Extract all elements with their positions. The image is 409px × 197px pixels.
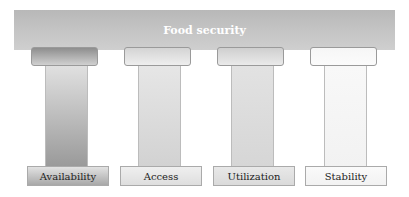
pillar-capital-access [124, 47, 191, 66]
banner-title: Food security [163, 24, 246, 37]
pillar-column-access [138, 66, 181, 166]
pillar-capital-availability [31, 47, 98, 66]
pillar-base-availability: Availability [27, 166, 109, 186]
pillar-label-utilization: Utilization [228, 171, 281, 182]
pillar-capital-utilization [217, 47, 284, 66]
food-security-banner: Food security [14, 10, 395, 50]
pillar-label-access: Access [144, 171, 179, 182]
pillar-column-stability [324, 66, 367, 166]
pillar-base-access: Access [120, 166, 202, 186]
pillar-base-stability: Stability [305, 166, 387, 186]
pillar-column-availability [45, 66, 88, 166]
pillar-label-stability: Stability [325, 171, 368, 182]
pillar-capital-stability [310, 47, 377, 66]
pillar-column-utilization [231, 66, 274, 166]
pillar-base-utilization: Utilization [213, 166, 295, 186]
pillar-label-availability: Availability [40, 171, 96, 182]
